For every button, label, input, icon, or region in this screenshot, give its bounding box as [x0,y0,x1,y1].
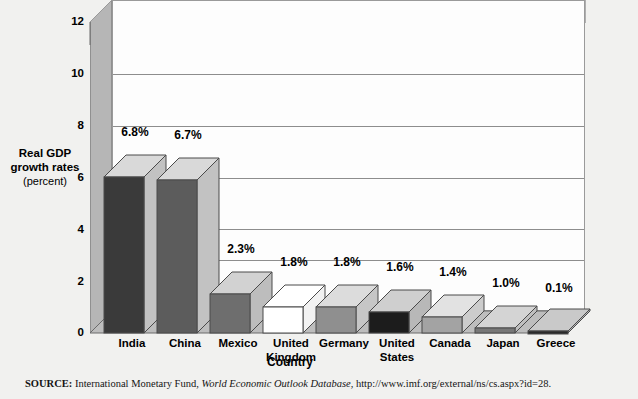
y-axis-title-main: Real GDP growth rates [10,147,79,173]
bar-greece[interactable] [528,309,590,359]
gridline-10 [113,74,584,75]
data-label-mexico: 2.3% [206,242,276,256]
data-label-greece: 0.1% [524,281,594,295]
category-label-line2: Kingdom [266,351,316,363]
ytick-4: 4 [58,223,84,235]
gridline-8 [113,126,584,127]
ytick-2: 2 [58,275,84,287]
source-prefix: SOURCE: [25,378,72,389]
category-label-greece: Greece [520,337,592,351]
y-axis-title-sub: (percent) [23,175,67,187]
source-url: , http://www.imf.org/external/ns/cs.aspx… [351,378,551,389]
ytick-10: 10 [58,67,84,79]
ytick-12: 12 [58,15,84,27]
category-label-line2: States [380,351,415,363]
category-label-line1: China [169,337,201,349]
y-axis-title: Real GDP growth rates (percent) [6,146,84,188]
category-label-line1: Canada [429,337,471,349]
category-label-line1: Japan [486,337,519,349]
category-label-line1: Greece [536,337,575,349]
source-note: SOURCE: International Monetary Fund, Wor… [25,378,625,389]
ytick-0: 0 [58,326,84,338]
category-label-line1: United [379,337,415,349]
category-label-line1: United [273,337,309,349]
category-label-line1: Mexico [219,337,258,349]
chart-figure: 12 10 8 6 4 2 0 Real GDP growth rates (p… [0,0,638,399]
source-text-before: International Monetary Fund, [72,378,201,389]
data-label-china: 6.7% [153,128,223,142]
category-label-line1: India [119,337,146,349]
ytick-8: 8 [58,119,84,131]
source-publication: World Economic Outlook Database [201,378,350,389]
